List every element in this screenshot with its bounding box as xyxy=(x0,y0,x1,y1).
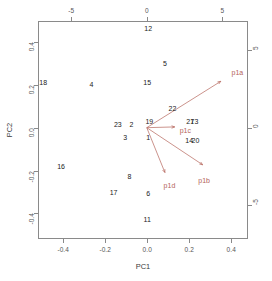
biplot-figure: -0.4-0.20.00.20.40.40.20.0-0.2-0.4-50550… xyxy=(0,0,272,281)
observation-label: 3 xyxy=(195,118,199,125)
observation-label: 18 xyxy=(39,78,47,85)
observation-label: 5 xyxy=(163,59,167,66)
observation-label: 2 xyxy=(129,120,133,127)
observation-label: 1 xyxy=(146,134,150,141)
variable-arrows-layer xyxy=(0,0,272,281)
variable-arrow xyxy=(147,128,203,165)
observation-label: 16 xyxy=(57,163,65,170)
observation-label: 4 xyxy=(90,81,94,88)
x-axis-title: PC1 xyxy=(136,262,151,271)
variable-label: p1d xyxy=(164,181,176,188)
variable-label: p1a xyxy=(232,69,244,76)
observation-label: 17 xyxy=(110,188,118,195)
variable-label: p1c xyxy=(180,127,191,134)
observation-label: 11 xyxy=(144,215,151,222)
variable-arrow xyxy=(147,126,175,129)
y-axis-title: PC2 xyxy=(5,123,14,138)
variable-arrow xyxy=(147,81,221,127)
observation-label: 3 xyxy=(123,134,127,141)
variable-label: p1b xyxy=(198,177,210,184)
observation-label: 23 xyxy=(114,120,122,127)
observation-label: 12 xyxy=(144,25,152,32)
observation-label: 22 xyxy=(168,104,176,111)
observation-label: 6 xyxy=(146,190,150,197)
observation-label: 20 xyxy=(192,136,200,143)
observation-label: 15 xyxy=(143,78,151,85)
observation-label: 19 xyxy=(145,118,153,125)
observation-label: 8 xyxy=(127,172,131,179)
